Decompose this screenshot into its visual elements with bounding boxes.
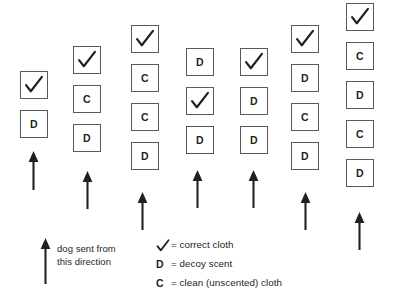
cloth-label: D bbox=[141, 151, 149, 162]
cloth-box-3-3: C bbox=[131, 103, 159, 131]
check-icon bbox=[350, 7, 370, 27]
cloth-box-4-1: D bbox=[186, 48, 214, 76]
cloth-box-6-1 bbox=[291, 25, 319, 53]
legend-row-correct-cloth: = correct cloth bbox=[156, 235, 386, 254]
cloth-label: C bbox=[83, 94, 91, 105]
cloth-label: C bbox=[301, 112, 309, 123]
cloth-box-1-2: D bbox=[20, 110, 48, 138]
cloth-label: C bbox=[141, 112, 149, 123]
cloth-label: D bbox=[301, 151, 309, 162]
check-icon bbox=[77, 50, 97, 70]
direction-arrow-column-4 bbox=[191, 170, 204, 208]
cloth-box-7-5: D bbox=[346, 159, 374, 187]
cloth-label: C bbox=[356, 51, 364, 62]
dog-direction-note: dog sent from this direction bbox=[57, 243, 116, 268]
legend: = correct cloth D = decoy scent C = clea… bbox=[156, 235, 386, 292]
cloth-box-5-1 bbox=[240, 48, 268, 76]
legend-label-correct-cloth: = correct cloth bbox=[171, 239, 234, 250]
cloth-box-7-2: C bbox=[346, 42, 374, 70]
legend-row-decoy-scent: D = decoy scent bbox=[156, 254, 386, 273]
cloth-box-4-2 bbox=[186, 87, 214, 115]
cloth-label: D bbox=[250, 135, 258, 146]
cloth-label: D bbox=[196, 135, 204, 146]
cloth-box-4-3: D bbox=[186, 126, 214, 154]
cloth-label: D bbox=[83, 133, 91, 144]
cloth-box-1-1 bbox=[20, 71, 48, 99]
cloth-box-7-4: C bbox=[346, 120, 374, 148]
cloth-label: C bbox=[141, 73, 149, 84]
cloth-box-5-2: D bbox=[240, 87, 268, 115]
direction-arrow-column-5 bbox=[247, 170, 260, 208]
cloth-box-7-1 bbox=[346, 3, 374, 31]
check-icon bbox=[244, 52, 264, 72]
check-icon bbox=[135, 29, 155, 49]
cloth-box-3-4: D bbox=[131, 142, 159, 170]
cloth-box-6-4: D bbox=[291, 142, 319, 170]
cloth-box-3-1 bbox=[131, 25, 159, 53]
legend-label-clean-cloth: = clean (unscented) cloth bbox=[171, 277, 282, 288]
check-icon bbox=[24, 75, 44, 95]
direction-arrow-column-1 bbox=[27, 151, 40, 190]
direction-arrow-column-6 bbox=[299, 192, 312, 230]
cloth-box-2-1 bbox=[73, 46, 101, 74]
cloth-box-6-2: D bbox=[291, 64, 319, 92]
cloth-label: C bbox=[356, 129, 364, 140]
dog-direction-arrow bbox=[39, 238, 52, 284]
check-icon bbox=[190, 91, 210, 111]
cloth-label: D bbox=[196, 57, 204, 68]
cloth-box-2-2: C bbox=[73, 85, 101, 113]
cloth-label: D bbox=[301, 73, 309, 84]
direction-arrow-column-3 bbox=[136, 192, 149, 230]
legend-label-decoy-scent: = decoy scent bbox=[171, 258, 232, 269]
cloth-box-6-3: C bbox=[291, 103, 319, 131]
cloth-label: D bbox=[356, 90, 364, 101]
cloth-box-2-3: D bbox=[73, 124, 101, 152]
cloth-box-3-2: C bbox=[131, 64, 159, 92]
cloth-label: D bbox=[30, 119, 38, 130]
cloth-box-7-3: D bbox=[346, 81, 374, 109]
cloth-label: D bbox=[250, 96, 258, 107]
check-icon bbox=[295, 29, 315, 49]
legend-row-clean-cloth: C = clean (unscented) cloth bbox=[156, 273, 386, 292]
direction-arrow-column-2 bbox=[81, 171, 94, 209]
check-icon bbox=[156, 239, 171, 253]
legend-key-decoy-scent: D bbox=[156, 258, 171, 270]
cloth-box-5-3: D bbox=[240, 126, 268, 154]
cloth-label: D bbox=[356, 168, 364, 179]
legend-key-clean-cloth: C bbox=[156, 277, 171, 289]
